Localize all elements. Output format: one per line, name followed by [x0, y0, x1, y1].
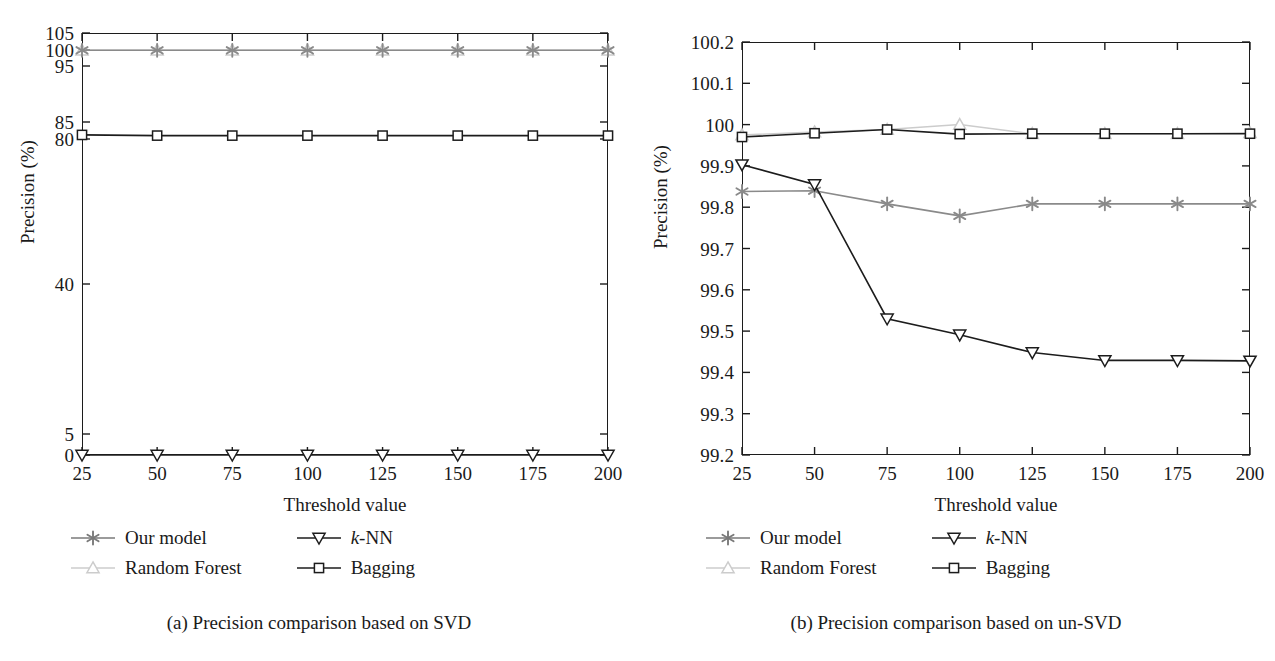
x-tick-label: 75 — [878, 464, 897, 483]
x-tick-label: 175 — [1163, 464, 1192, 483]
panel-a: 1051009585804050 Precision (%) 255075100… — [0, 0, 638, 661]
x-tick-label: 50 — [805, 464, 824, 483]
legend-label: Random Forest — [760, 558, 877, 577]
x-tick-label: 125 — [1018, 464, 1047, 483]
legend-a: Our modelk-NNRandom ForestBagging — [70, 528, 415, 577]
legend-label: k-NN — [351, 528, 393, 547]
star-icon — [70, 530, 116, 546]
panel-b: 100.2100.110099.999.899.799.699.599.499.… — [637, 0, 1275, 661]
legend-b: Our modelk-NNRandom ForestBagging — [705, 528, 1050, 577]
legend-item: Random Forest — [705, 558, 877, 577]
x-tick-label: 150 — [443, 464, 472, 483]
triangle-down-icon — [296, 530, 342, 546]
x-axis-title-b: Threshold value — [935, 494, 1058, 516]
legend-label: k-NN — [986, 528, 1028, 547]
legend-label: Bagging — [351, 558, 415, 577]
x-tick-label: 25 — [73, 464, 92, 483]
caption-b: (b) Precision comparison based on un-SVD — [637, 612, 1275, 634]
x-tick-label: 200 — [594, 464, 623, 483]
x-tick-label: 100 — [293, 464, 322, 483]
legend-item: Bagging — [931, 558, 1050, 577]
caption-a: (a) Precision comparison based on SVD — [0, 612, 638, 634]
triangle-up-icon — [705, 560, 751, 576]
legend-item: Our model — [70, 528, 242, 547]
square-icon — [931, 560, 977, 576]
x-tick-label: 150 — [1091, 464, 1120, 483]
square-icon — [296, 560, 342, 576]
triangle-down-icon — [931, 530, 977, 546]
legend-label: Random Forest — [125, 558, 242, 577]
legend-label: Bagging — [986, 558, 1050, 577]
legend-item: k-NN — [931, 528, 1050, 547]
x-axis-title-a: Threshold value — [284, 494, 407, 516]
x-tick-label: 175 — [519, 464, 548, 483]
x-tick-label: 75 — [223, 464, 242, 483]
star-icon — [705, 530, 751, 546]
x-tick-label: 100 — [945, 464, 974, 483]
legend-item: Our model — [705, 528, 877, 547]
figure-precision-comparison: 1051009585804050 Precision (%) 255075100… — [0, 0, 1275, 661]
x-tick-label: 25 — [733, 464, 752, 483]
x-tick-label: 50 — [148, 464, 167, 483]
legend-item: Random Forest — [70, 558, 242, 577]
legend-item: k-NN — [296, 528, 415, 547]
legend-item: Bagging — [296, 558, 415, 577]
triangle-up-icon — [70, 560, 116, 576]
x-tick-label: 200 — [1236, 464, 1265, 483]
x-tick-label: 125 — [368, 464, 397, 483]
legend-label: Our model — [760, 528, 842, 547]
legend-label: Our model — [125, 528, 207, 547]
